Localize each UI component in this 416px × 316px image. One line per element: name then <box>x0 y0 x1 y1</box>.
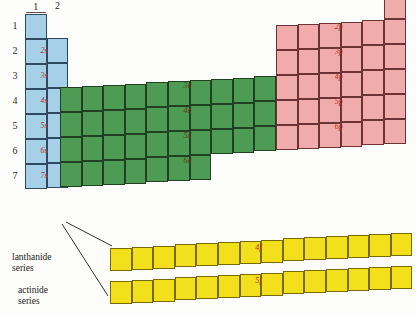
periodic-table-block-diagram: 12345678 1234567 2s3s4s5s6s7s3d4d5d6d2p3… <box>0 0 416 316</box>
f-block-connector-lines <box>0 0 416 316</box>
